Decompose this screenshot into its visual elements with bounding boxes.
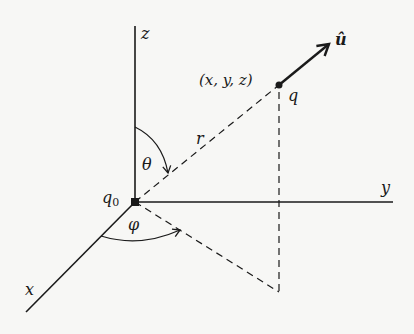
radius-line <box>135 85 279 202</box>
phi-label: φ <box>128 217 139 233</box>
target-coords-label: (x, y, z) <box>199 73 253 88</box>
origin-label-subscript: 0 <box>112 196 119 209</box>
target-point-label: q <box>288 88 298 104</box>
diagram-canvas <box>0 0 414 334</box>
planar-projection-line <box>135 202 279 292</box>
origin-label: q0 <box>102 190 119 208</box>
phi-arc <box>101 230 180 241</box>
unit-vector-label: û <box>335 32 347 48</box>
target-point <box>276 82 283 89</box>
radius-label: r <box>196 131 204 147</box>
origin-label-main: q <box>102 188 112 207</box>
x-axis-label: x <box>25 282 34 298</box>
unit-vector-arrow <box>279 44 329 85</box>
y-axis-label: y <box>381 180 390 196</box>
origin-point <box>131 198 139 206</box>
x-axis <box>26 202 135 312</box>
theta-label: θ <box>142 157 152 173</box>
z-axis-label: z <box>141 26 149 42</box>
spherical-coordinates-diagram: z y x q0 (x, y, z) q û r θ φ <box>0 0 414 334</box>
